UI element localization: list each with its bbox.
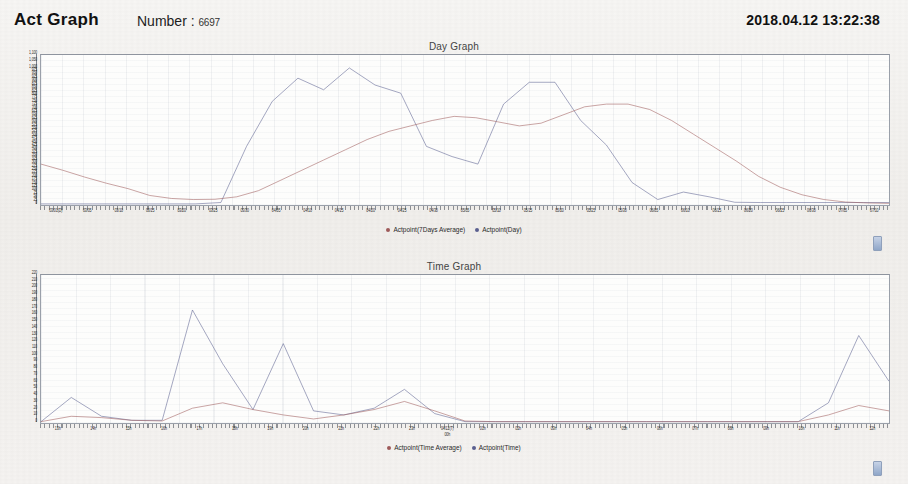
x-axis-tick-label: 05/10	[492, 208, 501, 214]
x-axis-tick-label: 03/05	[83, 208, 92, 214]
time-graph-title: Time Graph	[8, 258, 900, 274]
x-axis-tick-label: 13h	[55, 426, 61, 432]
y-axis-tick-label: 130	[32, 332, 37, 337]
x-axis-tick-label: 03/20	[177, 208, 186, 214]
x-axis-tick-label: 04/12(T)00h	[441, 426, 454, 438]
x-axis-tick-label: 04/05	[272, 208, 281, 214]
x-axis-tick-label: 17h	[197, 426, 203, 432]
time-graph-scrollbar-handle[interactable]	[873, 461, 882, 476]
series-line	[41, 310, 889, 422]
legend-item[interactable]: Actpoint(7Days Average)	[386, 226, 465, 233]
y-axis-tick-label: 20	[33, 406, 37, 411]
y-axis-tick-label: 190	[32, 291, 37, 296]
y-axis-tick-label: 1,100	[29, 51, 37, 56]
x-axis-tick-label: 05/15	[524, 208, 533, 214]
y-axis-tick-label: 0	[35, 419, 37, 424]
legend-item[interactable]: Actpoint(Time Average)	[387, 444, 462, 451]
number-value: 6697	[198, 17, 219, 28]
day-graph-plot-area[interactable]	[40, 54, 890, 206]
time-graph-plot-area[interactable]	[40, 274, 890, 424]
timestamp: 2018.04.12 13:22:38	[746, 12, 880, 28]
x-axis-tick-label: 19h	[267, 426, 273, 432]
window-header: Act Graph Number : 6697 2018.04.12 13:22…	[0, 0, 908, 40]
x-axis-tick-label: 07h	[692, 426, 698, 432]
x-axis-tick-label: 04h	[586, 426, 592, 432]
y-axis-tick-label: 200	[32, 285, 37, 290]
y-axis-tick-label: 160	[32, 312, 37, 317]
x-axis-tick-label: 01h	[480, 426, 486, 432]
y-axis-tick-label: 30	[33, 399, 37, 404]
x-axis-tick-label: 03/01(D)	[49, 208, 62, 214]
number-field: Number : 6697	[137, 13, 220, 29]
day-graph-panel: Day Graph 025507510012515017520022525027…	[8, 38, 900, 250]
y-axis-tick-label: 1,050	[29, 58, 37, 63]
x-axis-tick-label: 05/25	[587, 208, 596, 214]
y-axis-tick-label: 40	[33, 392, 37, 397]
y-axis-tick-label: 100	[32, 352, 37, 357]
y-axis-tick-label: 120	[32, 338, 37, 343]
x-axis-tick-label: 15h	[126, 426, 132, 432]
day-graph-legend: Actpoint(7Days Average)Actpoint(Day)	[8, 226, 900, 233]
y-axis-tick-label: 220	[32, 271, 37, 276]
y-axis-tick-label: 180	[32, 298, 37, 303]
y-axis-tick-label: 10	[33, 412, 37, 417]
x-axis-tick-label: 06/30	[807, 208, 816, 214]
y-axis-tick-label: 70	[33, 372, 37, 377]
x-axis-tick-label: 12h	[869, 426, 875, 432]
x-axis-tick-label: 03/25	[209, 208, 218, 214]
y-axis-tick-label: 80	[33, 365, 37, 370]
time-graph-panel: Time Graph 01020304050607080901001101201…	[8, 258, 900, 474]
series-line	[41, 401, 889, 421]
y-axis-tick-label: 90	[33, 359, 37, 364]
x-axis-tick-label: 18h	[232, 426, 238, 432]
x-axis-tick-label: 04/15	[335, 208, 344, 214]
y-axis-tick-label: 1,000	[29, 65, 37, 70]
x-axis-tick-label: 06h	[657, 426, 663, 432]
legend-label: Actpoint(Day)	[482, 226, 521, 233]
x-axis-tick-label: 06/20	[744, 208, 753, 214]
legend-item[interactable]: Actpoint(Day)	[475, 226, 521, 233]
legend-swatch-icon	[387, 446, 391, 450]
x-axis-tick-label: 08h	[728, 426, 734, 432]
day-graph-scrollbar-handle[interactable]	[873, 236, 882, 251]
y-axis-tick-label: 140	[32, 325, 37, 330]
y-axis-tick-label: 60	[33, 379, 37, 384]
x-axis-tick-label: 11h	[834, 426, 839, 432]
series-line	[41, 104, 889, 203]
day-graph-x-axis: 03/01(D)03/0503/1003/1503/2003/2503/3004…	[40, 206, 890, 224]
day-graph-title: Day Graph	[8, 38, 900, 54]
x-axis-tick-label: 06/10	[681, 208, 690, 214]
act-graph-window: Act Graph Number : 6697 2018.04.12 13:22…	[0, 0, 908, 484]
x-axis-tick-label: 16h	[161, 426, 167, 432]
x-axis-tick-label: 06/05	[650, 208, 659, 214]
series-line	[41, 68, 889, 204]
legend-swatch-icon	[472, 446, 476, 450]
x-axis-tick-label: 05/05	[461, 208, 470, 214]
day-graph-series-lines	[41, 55, 889, 205]
x-axis-tick-label: 05/20	[555, 208, 564, 214]
x-axis-tick-label: 09h	[763, 426, 769, 432]
x-axis-tick-label: 05/30	[618, 208, 627, 214]
x-axis-tick-label: 07/05	[839, 208, 848, 214]
x-axis-tick-label: 04/30	[429, 208, 438, 214]
time-graph-x-axis: 13h14h15h16h17h18h19h20h21h22h23h04/12(T…	[40, 424, 890, 442]
time-graph-legend: Actpoint(Time Average)Actpoint(Time)	[8, 444, 900, 451]
x-axis-tick-label: 04/25	[398, 208, 407, 214]
legend-item[interactable]: Actpoint(Time)	[472, 444, 521, 451]
legend-label: Actpoint(7Days Average)	[393, 226, 465, 233]
legend-label: Actpoint(Time Average)	[394, 444, 462, 451]
legend-swatch-icon	[475, 228, 479, 232]
x-axis-tick-label: 05h	[622, 426, 628, 432]
x-axis-tick-label: 04/10	[303, 208, 312, 214]
x-axis-tick-label: 03/15	[146, 208, 155, 214]
x-axis-tick-label: 07/10	[870, 208, 879, 214]
number-label: Number :	[137, 13, 195, 29]
x-axis-tick-label: 20h	[303, 426, 309, 432]
x-axis-tick-label: 21h	[338, 426, 344, 432]
x-axis-tick-label: 03/30	[240, 208, 249, 214]
x-axis-tick-label: 03/10	[114, 208, 123, 214]
legend-label: Actpoint(Time)	[479, 444, 521, 451]
y-axis-tick-label: 50	[33, 386, 37, 391]
x-axis-tick-label: 04/20	[366, 208, 375, 214]
y-axis-tick-label: 110	[32, 345, 37, 350]
